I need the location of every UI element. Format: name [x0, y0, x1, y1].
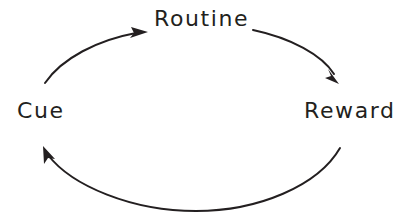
node-label-cue: Cue [17, 100, 65, 122]
arrow-routine-to-reward-path [253, 30, 334, 74]
arrow-cue-to-routine-path [45, 33, 136, 83]
node-label-reward: Reward [304, 100, 396, 122]
node-label-routine: Routine [154, 8, 249, 30]
arrow-reward-to-cue-path [48, 148, 340, 211]
arrowhead-at-routine-icon [130, 27, 148, 38]
habit-loop-diagram: Routine Cue Reward [0, 0, 401, 223]
